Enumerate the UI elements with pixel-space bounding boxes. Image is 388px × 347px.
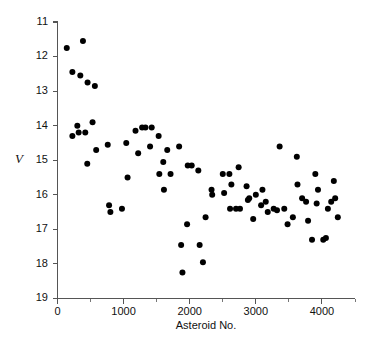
data-point (80, 38, 86, 44)
data-point (226, 171, 232, 177)
data-point (82, 130, 88, 136)
data-point (178, 242, 184, 248)
data-point (119, 206, 125, 212)
data-point (314, 200, 320, 206)
data-point (263, 199, 269, 205)
asteroid-magnitude-scatter-chart: 111213141516171819 01000200030004000 Ast… (0, 0, 388, 347)
data-point (142, 124, 148, 130)
data-point (106, 202, 112, 208)
y-axis-tick-group: 111213141516171819 (36, 15, 58, 304)
data-point (185, 162, 191, 168)
data-point (77, 73, 83, 79)
data-point (315, 187, 321, 193)
data-point (147, 143, 153, 149)
data-point (209, 192, 215, 198)
y-axis-tick-label: 18 (36, 257, 48, 269)
data-point (303, 199, 309, 205)
data-point (184, 221, 190, 227)
data-point (236, 164, 242, 170)
data-point (168, 171, 174, 177)
data-point (227, 206, 233, 212)
data-point (220, 171, 226, 177)
data-point (93, 147, 99, 153)
data-point (281, 206, 287, 212)
data-point (156, 171, 162, 177)
data-point (92, 83, 98, 89)
y-axis-tick-label: 13 (36, 84, 48, 96)
data-point (309, 237, 315, 243)
data-point (294, 154, 300, 160)
data-point (294, 181, 300, 187)
y-axis-tick-label: 17 (36, 222, 48, 234)
data-point (125, 175, 131, 181)
data-point (203, 214, 209, 220)
y-axis-tick-label: 19 (36, 291, 48, 303)
data-point (335, 214, 341, 220)
data-point (76, 130, 82, 136)
data-point (245, 197, 251, 203)
data-point (74, 123, 80, 129)
data-point (285, 221, 291, 227)
data-point (64, 45, 70, 51)
data-point (265, 209, 271, 215)
data-point (90, 119, 96, 125)
data-point (85, 79, 91, 85)
data-point (259, 187, 265, 193)
data-point (149, 124, 155, 130)
data-point (195, 168, 201, 174)
x-axis-tick-label: 0 (54, 305, 60, 317)
data-point (290, 214, 296, 220)
data-point (133, 128, 139, 134)
x-axis-tick-label: 3000 (244, 305, 268, 317)
data-point (105, 142, 111, 148)
data-point (332, 195, 338, 201)
data-point (209, 187, 215, 193)
data-point (250, 216, 256, 222)
y-axis-tick-label: 12 (36, 49, 48, 61)
data-point (228, 181, 234, 187)
y-axis-tick-label: 11 (37, 15, 48, 27)
data-point (156, 133, 162, 139)
x-axis-tick-label: 2000 (177, 305, 201, 317)
x-axis-tick-label: 1000 (111, 305, 135, 317)
data-point (164, 147, 170, 153)
data-point (179, 270, 185, 276)
data-point (274, 207, 280, 213)
data-point (135, 150, 141, 156)
data-point (69, 133, 75, 139)
data-points-layer (64, 38, 341, 276)
data-point (277, 143, 283, 149)
data-point (69, 69, 75, 75)
data-point (253, 192, 259, 198)
data-point (176, 143, 182, 149)
data-point (312, 171, 318, 177)
data-point (331, 178, 337, 184)
y-axis-tick-label: 15 (36, 153, 48, 165)
data-point (200, 259, 206, 265)
data-point (84, 161, 90, 167)
y-axis-title: V (15, 151, 25, 166)
data-point (323, 235, 329, 241)
scatter-plot-figure: 111213141516171819 01000200030004000 Ast… (0, 0, 388, 347)
x-axis-tick-group: 01000200030004000 (54, 299, 334, 318)
data-point (107, 209, 113, 215)
data-point (305, 218, 311, 224)
data-point (244, 183, 250, 189)
y-axis-tick-label: 14 (36, 119, 48, 131)
data-point (221, 190, 227, 196)
data-point (161, 187, 167, 193)
plot-axes (57, 22, 355, 299)
x-axis-tick-label: 4000 (310, 305, 334, 317)
data-point (325, 206, 331, 212)
data-point (160, 159, 166, 165)
data-point (237, 206, 243, 212)
y-axis-tick-label: 16 (36, 188, 48, 200)
data-point (123, 140, 129, 146)
data-point (197, 242, 203, 248)
x-axis-title: Asteroid No. (176, 319, 237, 331)
